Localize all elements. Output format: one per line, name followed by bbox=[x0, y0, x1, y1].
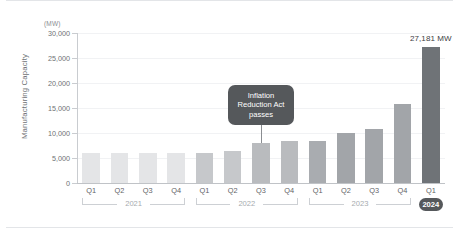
x-axis-label: Q4 bbox=[162, 186, 190, 195]
annotation-line: Reduction Act bbox=[238, 100, 285, 110]
annotation-line: Inflation bbox=[248, 91, 275, 101]
bar[interactable] bbox=[224, 151, 242, 184]
y-axis-tick-label: 25,000 bbox=[30, 54, 70, 63]
x-axis-label: Q3 bbox=[134, 186, 162, 195]
bar-value-label: 27,181 MW bbox=[391, 34, 459, 43]
bar[interactable] bbox=[139, 153, 157, 183]
y-axis-tick-labels: 30,00025,00020,00015,00010,0005,0000 bbox=[26, 0, 70, 236]
x-axis-label: Q4 bbox=[275, 186, 303, 195]
bar[interactable] bbox=[167, 153, 185, 183]
y-axis-tick-label: 20,000 bbox=[30, 79, 70, 88]
year-bracket-2022: 2022 bbox=[196, 198, 298, 205]
bar[interactable] bbox=[252, 143, 270, 183]
bar-slot[interactable] bbox=[105, 33, 133, 183]
bar[interactable] bbox=[422, 47, 440, 183]
bar-slot[interactable] bbox=[332, 33, 360, 183]
y-axis-tick-label: 5,000 bbox=[30, 154, 70, 163]
x-axis-line bbox=[77, 183, 445, 184]
y-axis-tick-label: 15,000 bbox=[30, 104, 70, 113]
year-bracket-2021: 2021 bbox=[82, 198, 184, 205]
bar[interactable] bbox=[337, 133, 355, 183]
year-label: 2023 bbox=[309, 199, 411, 208]
x-axis-label: Q1 bbox=[417, 186, 445, 195]
bar-slot[interactable] bbox=[162, 33, 190, 183]
x-axis-label: Q3 bbox=[247, 186, 275, 195]
year-badge-2024: 2024 bbox=[419, 198, 443, 211]
y-axis-tick-label: 10,000 bbox=[30, 129, 70, 138]
bar-slot[interactable] bbox=[134, 33, 162, 183]
x-axis-label: Q2 bbox=[219, 186, 247, 195]
bar-slot[interactable] bbox=[417, 33, 445, 183]
x-axis-label: Q2 bbox=[105, 186, 133, 195]
bar-slot[interactable] bbox=[190, 33, 218, 183]
year-label: 2021 bbox=[82, 199, 184, 208]
annotation-line: passes bbox=[249, 110, 273, 120]
bar-chart: (MW) Manufacturing Capacity 30,00025,000… bbox=[0, 0, 459, 236]
bar-slot[interactable] bbox=[360, 33, 388, 183]
bar[interactable] bbox=[82, 153, 100, 183]
x-axis-label: Q1 bbox=[303, 186, 331, 195]
bar[interactable] bbox=[196, 153, 214, 184]
bar[interactable] bbox=[281, 141, 299, 183]
annotation-leader-line bbox=[261, 125, 262, 143]
x-axis-label: Q4 bbox=[388, 186, 416, 195]
x-axis-label: Q1 bbox=[77, 186, 105, 195]
annotation-callout: InflationReduction Actpasses bbox=[228, 85, 294, 125]
year-label: 2022 bbox=[196, 199, 298, 208]
y-axis-tick-label: 30,000 bbox=[30, 29, 70, 38]
x-axis-label: Q1 bbox=[190, 186, 218, 195]
bar-slot[interactable] bbox=[388, 33, 416, 183]
bar[interactable] bbox=[394, 104, 412, 183]
x-axis-label: Q2 bbox=[332, 186, 360, 195]
bar-slot[interactable] bbox=[303, 33, 331, 183]
year-bracket-2023: 2023 bbox=[309, 198, 411, 205]
x-axis-label: Q3 bbox=[360, 186, 388, 195]
bar-slot[interactable] bbox=[77, 33, 105, 183]
bar[interactable] bbox=[365, 129, 383, 183]
y-axis-tick-label: 0 bbox=[30, 179, 70, 188]
x-axis-year-groups: 2021202220232024 bbox=[77, 198, 445, 222]
bar[interactable] bbox=[309, 141, 327, 184]
bar[interactable] bbox=[111, 153, 129, 183]
